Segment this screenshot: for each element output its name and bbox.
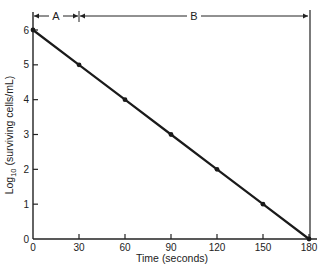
region-label: A xyxy=(52,10,60,22)
x-axis-title: Time (seconds) xyxy=(136,252,208,264)
x-tick-label: 120 xyxy=(209,242,226,253)
data-point xyxy=(215,167,220,172)
chart: 01234560306090120150180 AB Time (seconds… xyxy=(0,0,321,280)
axes: 01234560306090120150180 xyxy=(23,10,317,253)
y-tick-label: 2 xyxy=(23,164,29,175)
arrowhead-right-icon xyxy=(73,14,78,19)
region-annotations: AB xyxy=(34,10,308,22)
data-point xyxy=(169,132,174,137)
arrowhead-left-icon xyxy=(80,14,85,19)
y-tick-label: 0 xyxy=(23,234,29,245)
data-point xyxy=(307,237,312,242)
y-tick-label: 3 xyxy=(23,129,29,140)
y-tick-label: 6 xyxy=(23,25,29,36)
region-label: B xyxy=(190,10,197,22)
arrowhead-left-icon xyxy=(34,14,39,19)
y-tick-label: 5 xyxy=(23,59,29,70)
data-point xyxy=(123,97,128,102)
y-tick-label: 4 xyxy=(23,94,29,105)
x-tick-label: 30 xyxy=(73,242,85,253)
region-a: A xyxy=(34,10,78,22)
data-point xyxy=(77,62,82,67)
data-point xyxy=(31,28,36,33)
x-tick-label: 180 xyxy=(301,242,318,253)
y-tick-label: 1 xyxy=(23,199,29,210)
x-tick-label: 150 xyxy=(255,242,272,253)
x-tick-label: 0 xyxy=(30,242,36,253)
y-axis-title: Log10 (surviving cells/mL) xyxy=(3,76,18,195)
arrowhead-right-icon xyxy=(303,14,308,19)
data-point xyxy=(261,202,266,207)
data-series xyxy=(31,28,312,242)
x-tick-label: 60 xyxy=(119,242,131,253)
region-b: B xyxy=(80,10,308,22)
